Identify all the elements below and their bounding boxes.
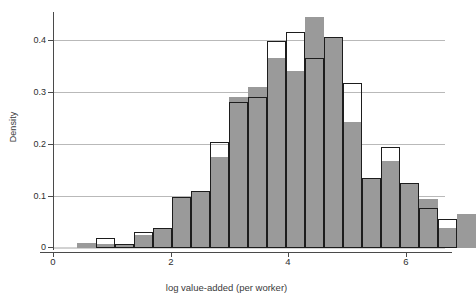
histogram-bar-outline [381,147,400,248]
y-axis-spine [53,12,54,250]
histogram-bar-outline [96,238,115,248]
x-tick-label-2: 2 [159,256,183,267]
histogram-bar-outline [191,191,210,248]
y-tick-label-0.3: 0.3 [20,87,46,97]
y-tick-label-0: 0 [20,242,46,252]
x-axis-label: log value-added (per worker) [0,282,453,293]
y-tick-label-0.1: 0.1 [20,191,46,201]
histogram-bar-outline [229,102,248,248]
histogram-bar-outline [343,83,362,248]
histogram-bar-outline [248,97,267,248]
y-tick-label-0.4: 0.4 [20,35,46,45]
histogram-bar-outline [210,142,229,248]
histogram-bar-outline [400,183,419,248]
histogram-bar-outline [362,178,381,248]
histogram-bar-outline [153,228,172,248]
histogram-bar-outline [305,58,324,248]
histogram-bar-outline [115,244,134,248]
histogram-bar-filled [77,243,96,248]
histogram-bar-outline [419,208,438,248]
y-tick-label-0.2: 0.2 [20,139,46,149]
y-axis-label: Density [8,92,18,162]
histogram-bar-outline [134,232,153,248]
histogram-bar-outline [267,41,286,248]
histogram-bar-outline [324,37,343,248]
x-tick-label-6: 6 [394,256,418,267]
x-tick-label-4: 4 [276,256,300,267]
gridline-0.4 [53,40,445,41]
x-axis-spine [40,252,452,253]
histogram-bar-outline [172,197,191,248]
histogram-bar-outline [438,219,457,248]
histogram-bar-outline [286,32,305,248]
x-tick-label-0: 0 [41,256,65,267]
histogram-bar-filled [457,214,476,248]
